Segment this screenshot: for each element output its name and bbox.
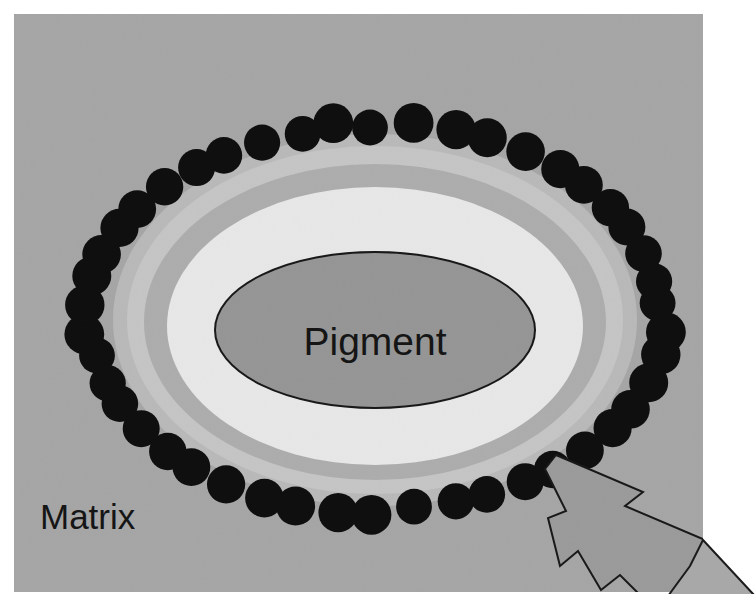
diagram-canvas: Pigment Matrix (0, 0, 755, 608)
figure-root: Pigment Matrix (0, 0, 755, 608)
pigment-label: Pigment (303, 320, 446, 363)
caption-strip (0, 594, 755, 608)
matrix-label: Matrix (40, 497, 136, 536)
